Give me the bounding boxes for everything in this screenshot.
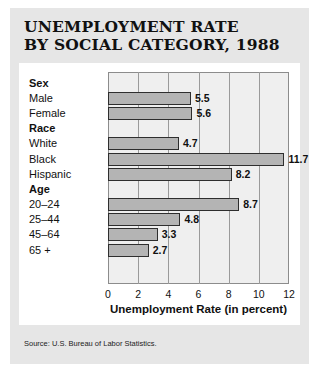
x-tick-label: 6	[187, 288, 211, 300]
bar	[108, 198, 239, 211]
x-tick-label: 12	[277, 288, 301, 300]
bar	[108, 107, 192, 120]
figure-panel: UNEMPLOYMENT RATE BY SOCIAL CATEGORY, 19…	[10, 8, 309, 364]
bar	[108, 153, 284, 166]
category-label: 45–64	[29, 228, 60, 241]
bar	[108, 228, 158, 241]
category-label: Female	[29, 107, 66, 120]
category-label: 65 +	[29, 244, 51, 257]
bar-value-label: 11.7	[288, 153, 308, 166]
group-label-race: Race	[29, 122, 55, 135]
x-tick-label: 10	[247, 288, 271, 300]
bar	[108, 92, 191, 105]
category-label: Male	[29, 92, 53, 105]
bar-value-label: 4.7	[183, 137, 198, 150]
chart-title-line-1: UNEMPLOYMENT RATE	[24, 18, 296, 36]
category-label: Hispanic	[29, 168, 71, 181]
category-label: 25–44	[29, 213, 60, 226]
bar-value-label: 8.7	[243, 198, 258, 211]
group-label-sex: Sex	[29, 77, 49, 90]
bar	[108, 137, 179, 150]
bar-value-label: 5.6	[196, 107, 211, 120]
bar-value-label: 5.5	[195, 92, 210, 105]
source-note: Source: U.S. Bureau of Labor Statistics.	[24, 339, 157, 348]
bar	[108, 244, 149, 257]
chart-card: SexMaleFemaleRaceWhiteBlackHispanicAge20…	[19, 63, 300, 325]
bar-value-label: 4.8	[184, 213, 199, 226]
category-label: 20–24	[29, 198, 60, 211]
bar	[108, 168, 232, 181]
bar-value-label: 8.2	[236, 168, 251, 181]
chart-title: UNEMPLOYMENT RATE BY SOCIAL CATEGORY, 19…	[24, 18, 296, 54]
bar-value-label: 3.3	[162, 228, 177, 241]
category-label: White	[29, 137, 57, 150]
chart-title-line-2: BY SOCIAL CATEGORY, 1988	[24, 36, 296, 54]
x-tick-label: 4	[156, 288, 180, 300]
x-tick-label: 8	[217, 288, 241, 300]
x-axis-title: Unemployment Rate (in percent)	[108, 303, 289, 315]
x-tick-label: 0	[96, 288, 120, 300]
bar	[108, 213, 180, 226]
bar-value-label: 2.7	[153, 244, 168, 257]
group-label-age: Age	[29, 183, 50, 196]
category-label: Black	[29, 153, 56, 166]
gridline-10	[259, 72, 260, 284]
x-tick-label: 2	[126, 288, 150, 300]
